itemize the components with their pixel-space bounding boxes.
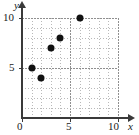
data-point (28, 65, 35, 72)
y-axis-arrow-icon (18, 1, 26, 8)
gridline-horizontal (22, 18, 118, 19)
x-tick-label-0: 0 (17, 121, 23, 132)
gridline-horizontal (22, 88, 118, 89)
y-axis-label: y (14, 0, 19, 11)
gridline-horizontal (22, 68, 118, 69)
gridline-horizontal (22, 108, 118, 109)
y-tick-label-10: 10 (3, 12, 14, 23)
gridline-horizontal (22, 48, 118, 49)
gridline-horizontal (22, 38, 118, 39)
data-point (38, 75, 45, 82)
y-tick-label-5: 5 (9, 62, 15, 73)
y-tick-mark (19, 68, 23, 69)
gridline-horizontal (22, 78, 118, 79)
y-tick-mark (19, 18, 23, 19)
gridline-vertical (118, 18, 119, 118)
gridline-horizontal (22, 98, 118, 99)
y-axis-line (21, 6, 23, 119)
x-axis-line (21, 117, 131, 119)
data-point (76, 15, 83, 22)
x-tick-label-5: 5 (66, 121, 72, 132)
scatter-plot: y x 10 5 0 5 10 (0, 0, 139, 135)
x-tick-label-10: 10 (108, 121, 119, 132)
x-axis-label: x (128, 121, 133, 132)
plot-area (22, 18, 118, 118)
gridline-horizontal (22, 58, 118, 59)
data-point (47, 45, 54, 52)
gridline-horizontal (22, 28, 118, 29)
data-point (57, 35, 64, 42)
